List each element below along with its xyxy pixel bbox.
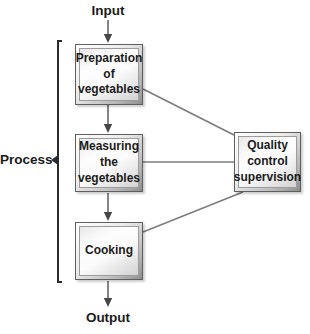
cooking-box-face: Cooking bbox=[79, 226, 139, 276]
arrow-measuring-cooking-head bbox=[104, 212, 112, 221]
quality-box-label: Quality control supervision bbox=[234, 138, 301, 185]
process-label: Process bbox=[0, 152, 48, 167]
arrow-input-preparation-head bbox=[104, 34, 112, 43]
measuring-box: Measuring the vegetables bbox=[75, 134, 143, 192]
measuring-box-label: Measuring the vegetables bbox=[78, 139, 140, 186]
output-label: Output bbox=[0, 310, 216, 325]
input-label: Input bbox=[0, 3, 216, 18]
preparation-box-face: Preparation of vegetables bbox=[79, 48, 139, 101]
quality-box: Quality control supervision bbox=[234, 132, 301, 192]
edge-quality-cooking bbox=[143, 192, 243, 232]
quality-box-face: Quality control supervision bbox=[238, 136, 297, 188]
preparation-box: Preparation of vegetables bbox=[75, 44, 143, 105]
flowchart: Input Output Process Preparation of vege… bbox=[0, 0, 310, 334]
measuring-box-face: Measuring the vegetables bbox=[79, 138, 139, 188]
arrow-cooking-output-head bbox=[104, 298, 112, 307]
arrow-preparation-measuring-head bbox=[104, 124, 112, 133]
edge-preparation-quality bbox=[143, 89, 234, 135]
cooking-box-label: Cooking bbox=[85, 243, 133, 259]
cooking-box: Cooking bbox=[75, 222, 143, 280]
process-bracket bbox=[58, 41, 62, 282]
preparation-box-label: Preparation of vegetables bbox=[76, 51, 143, 98]
